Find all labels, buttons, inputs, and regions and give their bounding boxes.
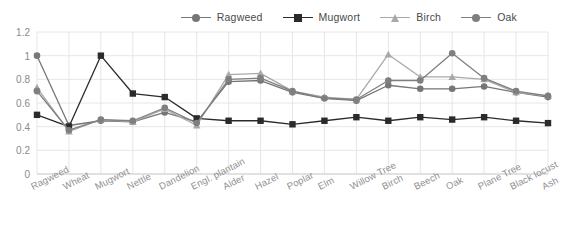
data-point-square: [513, 118, 519, 124]
data-point-square: [321, 118, 327, 124]
legend-item-ragweed[interactable]: Ragweed: [181, 11, 263, 23]
data-point-circle: [481, 75, 488, 82]
data-point-circle: [321, 95, 328, 102]
x-axis: RagweedWheatMugwortNettleDandelionEngl. …: [0, 178, 561, 238]
legend-label: Mugwort: [319, 11, 361, 23]
legend-label: Oak: [497, 11, 517, 23]
data-point-square: [130, 90, 136, 96]
data-point-square: [385, 118, 391, 124]
data-point-square: [353, 114, 359, 120]
grid-lines: [37, 32, 548, 174]
data-point-square: [449, 116, 455, 122]
legend-swatch-circle-icon: [461, 11, 491, 23]
legend-item-oak[interactable]: Oak: [461, 11, 517, 23]
legend-label: Birch: [416, 11, 441, 23]
data-point-circle: [193, 120, 200, 127]
data-point-circle: [385, 77, 392, 84]
data-point-circle: [513, 88, 520, 95]
plot-svg: [0, 28, 561, 178]
allergen-line-chart: RagweedMugwortBirchOak 00.20.40.60.811.2…: [0, 0, 561, 238]
data-point-circle: [161, 104, 168, 111]
data-point-circle: [449, 86, 456, 93]
data-point-circle: [545, 93, 552, 100]
plot-area: [0, 28, 561, 178]
data-point-circle: [417, 77, 424, 84]
chart-legend: RagweedMugwortBirchOak: [0, 6, 561, 28]
data-point-circle: [66, 127, 73, 134]
data-point-circle: [34, 88, 41, 95]
data-point-square: [545, 120, 551, 126]
data-point-square: [34, 112, 40, 118]
data-point-square: [481, 114, 487, 120]
x-tick-label: Elm: [316, 174, 336, 191]
data-point-circle: [257, 75, 264, 82]
legend-item-birch[interactable]: Birch: [380, 11, 441, 23]
legend-label: Ragweed: [217, 11, 263, 23]
data-point-circle: [289, 88, 296, 95]
data-point-circle: [34, 52, 41, 59]
legend-item-mugwort[interactable]: Mugwort: [283, 11, 361, 23]
data-point-circle: [353, 96, 360, 103]
legend-swatch-square-icon: [283, 11, 313, 23]
data-point-square: [257, 118, 263, 124]
data-point-square: [162, 94, 168, 100]
data-point-circle: [449, 50, 456, 57]
legend-swatch-circle-icon: [181, 11, 211, 23]
data-point-square: [225, 118, 231, 124]
data-point-circle: [225, 76, 232, 83]
data-point-circle: [481, 83, 488, 90]
x-tick-label: Ash: [540, 174, 560, 191]
legend-swatch-triangle-icon: [380, 11, 410, 23]
data-point-square: [289, 121, 295, 127]
data-point-circle: [98, 116, 105, 123]
data-point-square: [417, 114, 423, 120]
data-point-circle: [130, 117, 137, 124]
data-point-square: [98, 52, 104, 58]
data-point-triangle: [385, 51, 393, 58]
data-point-circle: [417, 86, 424, 93]
